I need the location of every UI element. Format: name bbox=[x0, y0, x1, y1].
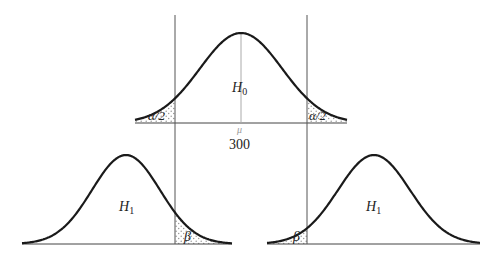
mean-value: 300 bbox=[229, 137, 250, 152]
alpha-left-label: α/2 bbox=[148, 108, 165, 123]
hypothesis-test-diagram: H0 μ 300 α/2 α/2 H1 H1 β β bbox=[0, 0, 496, 265]
alt-hypothesis-left-label: H1 bbox=[118, 199, 134, 216]
alt-hypothesis-right-label: H1 bbox=[365, 199, 381, 216]
beta-label-right-alt: β bbox=[292, 229, 300, 244]
diagram-canvas: H0 μ 300 α/2 α/2 H1 H1 β β bbox=[0, 0, 496, 265]
beta-label-left-alt: β bbox=[183, 229, 191, 244]
mean-symbol: μ bbox=[236, 124, 242, 135]
alpha-right-label: α/2 bbox=[309, 108, 326, 123]
null-hypothesis-label: H0 bbox=[231, 80, 247, 97]
